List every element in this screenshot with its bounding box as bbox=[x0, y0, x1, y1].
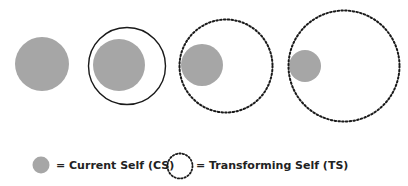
stage-2 bbox=[89, 28, 166, 105]
legend-gray-circle-icon bbox=[33, 157, 50, 174]
legend: = Current Self (CS) = Transforming Self … bbox=[33, 154, 349, 179]
stage-3 bbox=[180, 20, 273, 113]
current-self-circle bbox=[289, 50, 321, 82]
legend-transforming-self-label: = Transforming Self (TS) bbox=[196, 159, 348, 172]
legend-item-transforming-self: = Transforming Self (TS) bbox=[168, 154, 349, 179]
self-transformation-diagram: = Current Self (CS) = Transforming Self … bbox=[0, 0, 408, 186]
current-self-circle bbox=[93, 39, 145, 91]
legend-item-current-self: = Current Self (CS) bbox=[33, 157, 175, 174]
current-self-circle bbox=[181, 44, 223, 86]
stage-1 bbox=[15, 37, 69, 91]
stage-4 bbox=[289, 11, 400, 122]
legend-current-self-label: = Current Self (CS) bbox=[56, 159, 174, 172]
current-self-circle bbox=[15, 37, 69, 91]
